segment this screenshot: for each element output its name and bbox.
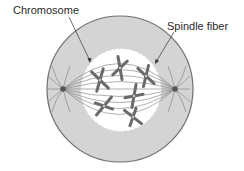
spindle-fiber-label: Spindle fiber [167,20,228,32]
chromosome-label: Chromosome [13,4,79,16]
centrosome-right [172,86,178,92]
mitosis-diagram: Chromosome Spindle fiber [0,0,244,171]
nuclear-region [81,49,161,131]
centrosome-left [60,86,66,92]
